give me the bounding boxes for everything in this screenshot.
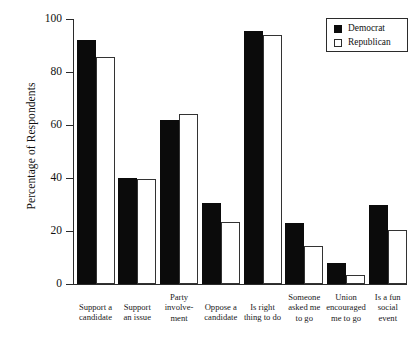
x-axis-label-line: Party (153, 292, 205, 302)
bar-group (285, 19, 323, 284)
bar-group (77, 19, 115, 284)
y-tick-label: 60 (36, 119, 62, 131)
bar-republican (388, 230, 407, 284)
bar-democrat (118, 178, 137, 284)
y-tick-label: 80 (36, 66, 62, 78)
bar-democrat (244, 31, 263, 284)
y-tick-label: 0 (36, 278, 62, 290)
bar-group (202, 19, 240, 284)
x-axis-line (73, 284, 407, 285)
bar-democrat (327, 263, 346, 284)
bar-republican (96, 57, 115, 284)
x-axis-label-line: Is a fun (362, 292, 414, 302)
plot-area (73, 19, 405, 284)
bar-group (327, 19, 365, 284)
bar-chart: Percentage of Respondents 020406080100 S… (0, 0, 419, 346)
bar-democrat (160, 120, 179, 284)
bar-democrat (369, 205, 388, 285)
bar-republican (263, 35, 282, 284)
bar-republican (179, 114, 198, 284)
bar-republican (304, 246, 323, 284)
x-axis-label-line: event (362, 313, 414, 323)
legend-swatch-republican-icon (334, 39, 342, 47)
bar-democrat (77, 40, 96, 284)
bar-republican (221, 222, 240, 284)
bar-group (160, 19, 198, 284)
legend-label-democrat: Democrat (348, 24, 385, 33)
y-tick-label: 20 (36, 225, 62, 237)
bar-group (369, 19, 407, 284)
bar-group (244, 19, 282, 284)
x-axis-label-line: social (362, 302, 414, 312)
legend-swatch-democrat-icon (334, 25, 342, 33)
legend-label-republican: Republican (348, 38, 391, 47)
bar-republican (346, 275, 365, 284)
legend: Democrat Republican (326, 18, 408, 52)
bar-democrat (202, 203, 221, 284)
legend-entry-democrat: Democrat (334, 22, 407, 35)
y-tick-label: 40 (36, 172, 62, 184)
bar-group (118, 19, 156, 284)
x-axis-label: Is a funsocialevent (362, 292, 414, 323)
y-tick-label: 100 (36, 13, 62, 25)
bar-republican (137, 179, 156, 284)
bar-democrat (285, 223, 304, 284)
legend-entry-republican: Republican (334, 36, 407, 49)
